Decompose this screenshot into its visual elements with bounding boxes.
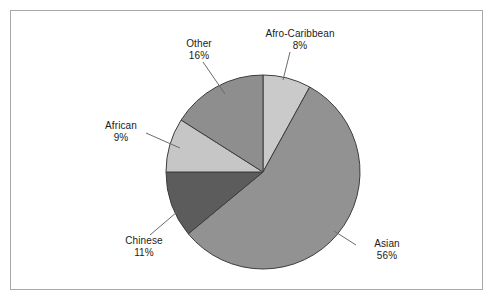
leader-line-asian	[334, 231, 356, 245]
pie-label-asian-name: Asian	[357, 238, 417, 250]
pie-label-chinese: Chinese 11%	[112, 235, 176, 259]
leader-line-afro-caribbean	[283, 52, 290, 80]
pie-label-afro-caribbean-name: Afro-Caribbean	[252, 28, 348, 40]
pie-label-afro-caribbean: Afro-Caribbean 8%	[252, 28, 348, 52]
pie-label-african-value: 9%	[92, 132, 150, 144]
leader-line-chinese	[150, 212, 177, 235]
pie-slices	[166, 75, 360, 269]
pie-chart-screenshot: Afro-Caribbean 8% Other 16% African 9% C…	[0, 0, 501, 302]
pie-label-afro-caribbean-value: 8%	[252, 40, 348, 52]
pie-label-other-name: Other	[170, 38, 228, 50]
pie-label-chinese-value: 11%	[112, 247, 176, 259]
pie-label-other-value: 16%	[170, 50, 228, 62]
pie-label-asian-value: 56%	[357, 250, 417, 262]
pie-chart-graphic	[0, 0, 501, 302]
pie-label-chinese-name: Chinese	[112, 235, 176, 247]
pie-label-african-name: African	[92, 120, 150, 132]
pie-label-other: Other 16%	[170, 38, 228, 62]
pie-label-asian: Asian 56%	[357, 238, 417, 262]
pie-label-african: African 9%	[92, 120, 150, 144]
